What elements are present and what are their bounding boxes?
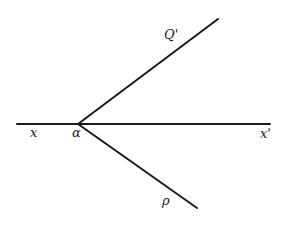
label-x: x <box>30 126 37 139</box>
ray-to-q <box>78 19 218 124</box>
diagram-canvas <box>0 0 290 231</box>
label-q-prime: Q' <box>164 28 178 41</box>
label-p: ρ <box>162 194 170 207</box>
label-alpha: α <box>72 126 81 139</box>
ray-to-p <box>78 124 197 208</box>
label-x-prime: x' <box>260 127 271 140</box>
